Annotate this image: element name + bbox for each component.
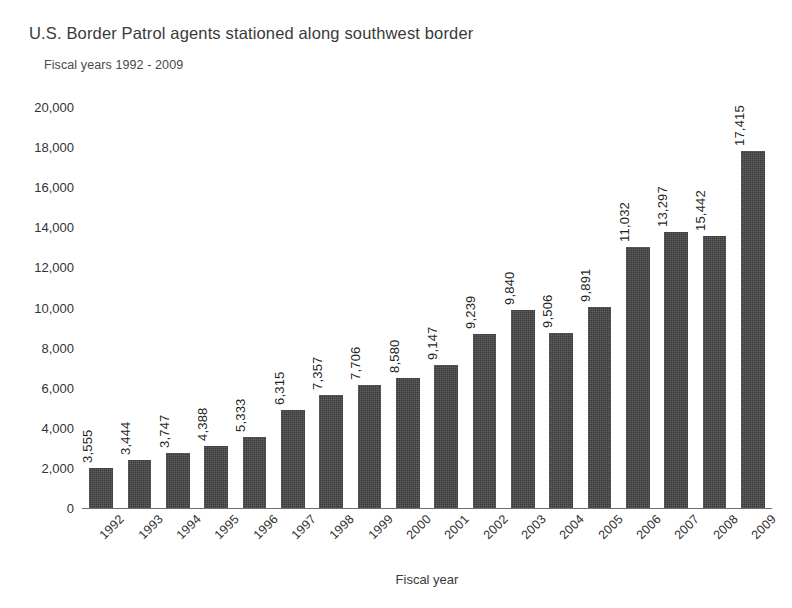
bar <box>396 378 420 508</box>
bar-group: 5,333 <box>243 107 267 508</box>
x-axis-title: Fiscal year <box>0 572 792 587</box>
bar <box>89 468 113 509</box>
bar <box>243 437 267 508</box>
bar-group: 9,239 <box>473 107 497 508</box>
bar-value-label: 3,747 <box>157 415 172 449</box>
bar-value-label: 7,357 <box>310 357 325 391</box>
chart-title: U.S. Border Patrol agents stationed alon… <box>29 24 473 43</box>
y-axis-tick: 0 <box>12 501 74 516</box>
bar <box>664 232 688 508</box>
bar-value-label: 17,415 <box>732 105 747 146</box>
y-axis-tick: 2,000 <box>12 460 74 475</box>
x-axis-tick: 1993 <box>135 512 165 542</box>
bar-group: 8,580 <box>396 107 420 508</box>
x-axis-tick: 1999 <box>365 512 395 542</box>
y-axis-tick: 8,000 <box>12 340 74 355</box>
bar-group: 17,415 <box>741 107 765 508</box>
bar-group: 9,891 <box>588 107 612 508</box>
bar-value-label: 5,333 <box>233 399 248 433</box>
bar-group: 6,315 <box>281 107 305 508</box>
chart-subtitle: Fiscal years 1992 - 2009 <box>44 58 183 72</box>
bar <box>281 410 305 508</box>
bar-group: 9,147 <box>434 107 458 508</box>
x-axis-tick: 1994 <box>174 512 204 542</box>
bar <box>319 395 343 508</box>
bar <box>434 365 458 508</box>
bar <box>511 310 535 508</box>
bar-group: 9,840 <box>511 107 535 508</box>
bar-group: 7,357 <box>319 107 343 508</box>
bar-group: 15,442 <box>703 107 727 508</box>
bar-value-label: 9,506 <box>540 294 555 328</box>
bar-value-label: 3,444 <box>118 421 133 455</box>
bar <box>473 334 497 508</box>
y-axis-tick: 18,000 <box>12 140 74 155</box>
y-axis-tick: 12,000 <box>12 260 74 275</box>
bar <box>588 307 612 508</box>
bar <box>166 453 190 508</box>
bar-chart-figure: U.S. Border Patrol agents stationed alon… <box>0 0 792 608</box>
bar <box>626 247 650 508</box>
bar <box>358 385 382 508</box>
bar-value-label: 9,891 <box>578 268 593 302</box>
y-axis-tick: 20,000 <box>12 100 74 115</box>
bar-value-label: 7,706 <box>348 346 363 380</box>
x-axis-tick: 1997 <box>289 512 319 542</box>
bar <box>204 446 228 508</box>
plot-area: 3,5553,4443,7474,3885,3336,3157,3577,706… <box>82 107 772 508</box>
bar-value-label: 6,315 <box>272 371 287 405</box>
bar-value-label: 3,555 <box>80 429 95 463</box>
bar-value-label: 4,388 <box>195 408 210 442</box>
x-axis-tick: 1998 <box>327 512 357 542</box>
x-axis-tick: 2000 <box>404 512 434 542</box>
y-axis-tick: 4,000 <box>12 420 74 435</box>
bar-value-label: 8,580 <box>387 339 402 373</box>
bar-value-label: 9,147 <box>425 327 440 361</box>
bar-value-label: 9,840 <box>502 272 517 306</box>
bar <box>549 333 573 508</box>
bar-value-label: 11,032 <box>617 202 632 242</box>
bar <box>741 151 765 508</box>
x-axis-tick: 2008 <box>710 512 740 542</box>
bar-group: 13,297 <box>664 107 688 508</box>
x-axis-tick: 2009 <box>749 512 779 542</box>
bar-group: 3,555 <box>89 107 113 508</box>
y-axis-tick: 14,000 <box>12 220 74 235</box>
bar <box>128 460 152 508</box>
x-axis-tick: 2006 <box>634 512 664 542</box>
y-axis-tick-labels: 20,00018,00016,00014,00012,00010,0008,00… <box>8 107 74 508</box>
bar <box>703 236 727 508</box>
bar-value-label: 13,297 <box>655 186 670 227</box>
x-axis-tick: 1992 <box>97 512 127 542</box>
x-axis-tick: 2001 <box>442 512 472 542</box>
x-axis-tick: 2007 <box>672 512 702 542</box>
bar-group: 11,032 <box>626 107 650 508</box>
bar-value-label: 9,239 <box>463 295 478 329</box>
x-axis-tick-labels: 1992199319941995199619971998199920002001… <box>82 508 772 568</box>
bar-group: 3,747 <box>166 107 190 508</box>
x-axis-tick: 2004 <box>557 512 587 542</box>
y-axis-tick: 10,000 <box>12 300 74 315</box>
bar-group: 4,388 <box>204 107 228 508</box>
y-axis-tick: 6,000 <box>12 380 74 395</box>
x-axis-tick: 2003 <box>519 512 549 542</box>
bar-group: 7,706 <box>358 107 382 508</box>
x-axis-tick: 1995 <box>212 512 242 542</box>
bar-group: 9,506 <box>549 107 573 508</box>
x-axis-tick: 2005 <box>595 512 625 542</box>
bar-group: 3,444 <box>128 107 152 508</box>
x-axis-tick: 2002 <box>480 512 510 542</box>
y-axis-tick: 16,000 <box>12 180 74 195</box>
bar-value-label: 15,442 <box>693 190 708 231</box>
x-axis-title-text: Fiscal year <box>396 572 459 587</box>
x-axis-tick: 1996 <box>250 512 280 542</box>
